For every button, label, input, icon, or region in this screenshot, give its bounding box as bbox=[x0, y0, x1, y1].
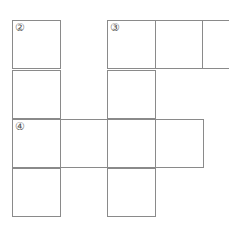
grid-cell[interactable] bbox=[12, 168, 61, 217]
grid-cell[interactable]: ④ bbox=[12, 119, 61, 168]
clue-number: ② bbox=[15, 22, 25, 34]
crossword-grid: ②③④ bbox=[0, 0, 229, 226]
grid-cell[interactable] bbox=[155, 20, 204, 69]
grid-cell[interactable]: ② bbox=[12, 20, 61, 69]
grid-cell[interactable] bbox=[107, 70, 156, 119]
grid-cell[interactable] bbox=[60, 119, 109, 168]
clue-number: ③ bbox=[110, 22, 120, 34]
grid-cell[interactable] bbox=[107, 168, 156, 217]
grid-cell[interactable]: ③ bbox=[107, 20, 156, 69]
grid-cell[interactable] bbox=[155, 119, 204, 168]
grid-cell[interactable] bbox=[107, 119, 156, 168]
grid-cell[interactable] bbox=[12, 70, 61, 119]
grid-cell[interactable] bbox=[202, 20, 229, 69]
clue-number: ④ bbox=[15, 121, 25, 133]
